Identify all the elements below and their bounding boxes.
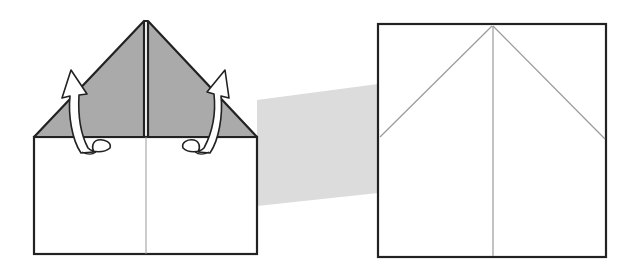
unfolded-square (378, 24, 606, 257)
left-flap (34, 21, 144, 137)
connector-band (257, 84, 378, 206)
right-flap (148, 21, 257, 137)
left-figure (34, 21, 257, 254)
right-figure (378, 24, 606, 257)
diagram-stage (0, 0, 642, 273)
